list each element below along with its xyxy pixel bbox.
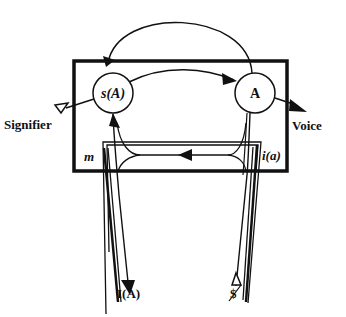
m-label: m xyxy=(84,149,94,164)
signifier-line xyxy=(66,99,94,108)
ego-curve-top-left xyxy=(117,123,140,155)
upward-arrowhead-icon xyxy=(109,113,120,128)
barred-subject-triangle-icon xyxy=(232,273,241,285)
voice-arrowhead-icon xyxy=(289,99,307,112)
chain-arrowhead-icon xyxy=(222,73,237,85)
i-a-label: i(a) xyxy=(262,148,281,163)
other-node-label: A xyxy=(250,86,261,101)
ego-arrowhead-icon xyxy=(178,149,192,161)
retroversion-arc xyxy=(108,22,252,73)
ego-curve-top-right xyxy=(228,123,246,155)
voice-label: Voice xyxy=(292,118,322,133)
imaginary-frame-inner xyxy=(107,145,258,252)
signifier-chain-arc xyxy=(129,70,234,82)
signifier-label: Signifier xyxy=(4,117,52,132)
signified-node-label: s(A) xyxy=(100,86,125,102)
graph-diagram: s(A) A Signifier Voice m i(a) I(A) $ xyxy=(0,0,346,317)
ideal-label: I(A) xyxy=(117,286,140,301)
